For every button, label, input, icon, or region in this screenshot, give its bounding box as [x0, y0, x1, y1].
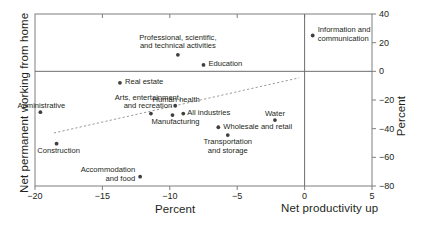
data-point: [176, 53, 180, 57]
x-tick-label: −5: [217, 191, 257, 201]
x-tick-label: 5: [352, 191, 392, 201]
y-tick-label: 20: [379, 38, 413, 48]
y-tick-label: −40: [379, 124, 413, 134]
data-point: [118, 81, 122, 85]
data-point-label: Professional, scientific, and technical …: [108, 34, 248, 51]
x-tick-label: −15: [82, 191, 122, 201]
y-tick-label: −80: [379, 181, 413, 191]
data-point: [38, 110, 42, 114]
data-point-label: Real estate: [125, 78, 163, 87]
y-tick-label: −20: [379, 95, 413, 105]
data-point-label: Construction: [0, 147, 129, 156]
net-productivity-annotation: Net productivity up: [281, 202, 378, 214]
data-point: [181, 112, 185, 116]
y-tick-label: 40: [379, 9, 413, 19]
data-point-label: Water: [205, 110, 345, 119]
scatter-chart-figure: Net permanent working from home Percent …: [0, 0, 424, 230]
data-point-label: Transportation and storage: [158, 138, 298, 155]
data-point-label: Information and communication: [318, 26, 371, 43]
data-point: [149, 112, 153, 116]
data-point: [311, 34, 315, 38]
data-point-label: Administrative: [0, 102, 111, 111]
data-point-label: Education: [209, 60, 243, 69]
data-point-label: Accommodation and food: [15, 166, 135, 183]
data-point: [138, 175, 142, 179]
x-tick-label: −10: [150, 191, 190, 201]
y-tick-label: −60: [379, 152, 413, 162]
x-tick-label: 0: [285, 191, 325, 201]
x-tick-label: −20: [15, 191, 55, 201]
y-tick-label: 0: [379, 66, 413, 76]
x-axis-title: Percent: [155, 203, 195, 215]
data-point: [202, 63, 206, 67]
data-point-label: Wholesale and retail: [223, 123, 292, 132]
